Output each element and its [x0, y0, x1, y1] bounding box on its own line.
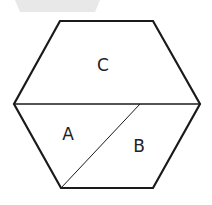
region-label-b: B: [133, 136, 145, 156]
faded-top-shape: [15, 0, 100, 12]
region-label-a: A: [62, 124, 74, 144]
region-label-c: C: [97, 55, 109, 75]
hexagon-diagram: C A B: [0, 0, 212, 205]
